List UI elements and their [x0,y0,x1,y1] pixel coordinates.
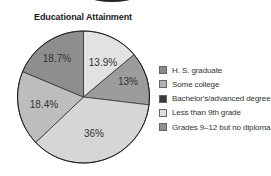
slice-label-less-than-9th: 13.9% [89,57,117,68]
legend-swatch [159,109,167,117]
legend-item-hs-graduate: H. S. graduate [159,63,271,77]
legend-item-grades-9-12: Grades 9–12 but no diploma [159,120,271,134]
legend-swatch [159,123,167,131]
slice-label-hs-graduate: 36% [84,128,104,139]
legend-label: Less than 9th grade [172,108,241,117]
legend-label: Grades 9–12 but no diploma [172,123,270,132]
legend-item-bachelors: Bachelor's/advanced degree [159,92,271,106]
slice-label-grades-9-12: 13% [118,76,138,87]
legend-label: Bachelor's/advanced degree [172,94,271,103]
legend: H. S. graduate Some college Bachelor's/a… [159,63,271,134]
legend-label: H. S. graduate [172,66,222,75]
slice-label-bachelors: 18.7% [43,53,71,64]
slice-label-some-college: 18.4% [30,99,58,110]
legend-label: Some college [172,80,219,89]
legend-swatch [159,95,167,103]
legend-swatch [159,66,167,74]
pie-slices [17,31,149,163]
legend-swatch [159,80,167,88]
legend-item-less-than-9th: Less than 9th grade [159,106,271,120]
legend-item-some-college: Some college [159,77,271,91]
